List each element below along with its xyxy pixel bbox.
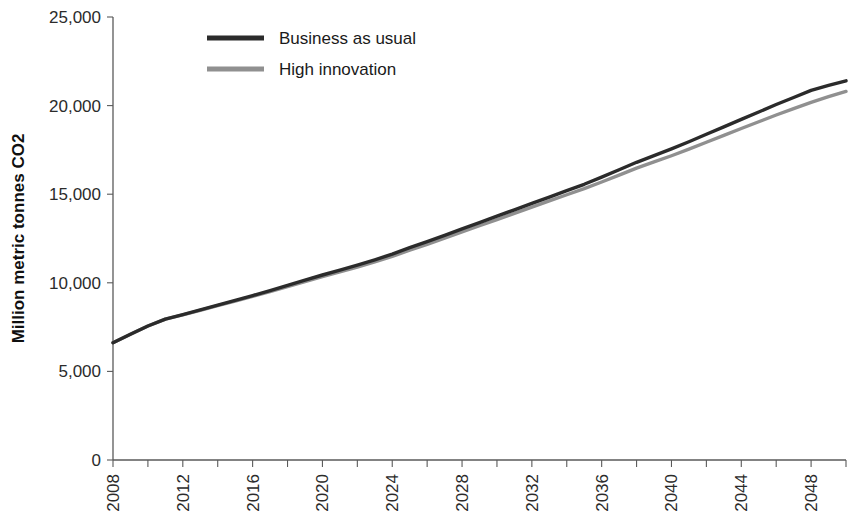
axes-group — [107, 17, 846, 467]
x-tick-label: 2012 — [174, 474, 193, 512]
x-tick-label: 2048 — [802, 474, 821, 512]
legend-label: Business as usual — [279, 29, 416, 48]
x-tick-label: 2016 — [244, 474, 263, 512]
line-chart: 05,00010,00015,00020,00025,000 200820122… — [0, 0, 850, 515]
y-tick-label: 5,000 — [58, 362, 101, 381]
x-tick-label: 2008 — [104, 474, 123, 512]
y-tick-labels: 05,00010,00015,00020,00025,000 — [49, 8, 101, 470]
x-tick-labels: 2008201220162020202420282032203620402044… — [104, 474, 821, 512]
y-axis-title-text: Million metric tonnes CO2 — [9, 134, 28, 344]
x-tick-label: 2024 — [383, 474, 402, 512]
x-tick-label: 2028 — [453, 474, 472, 512]
y-tick-label: 10,000 — [49, 274, 101, 293]
series-group — [113, 81, 846, 343]
y-axis-title: Million metric tonnes CO2 — [9, 134, 28, 344]
y-tick-label: 0 — [92, 451, 101, 470]
legend-label: High innovation — [279, 60, 396, 79]
chart-container: 05,00010,00015,00020,00025,000 200820122… — [0, 0, 850, 515]
x-tick-label: 2036 — [593, 474, 612, 512]
x-tick-label: 2020 — [313, 474, 332, 512]
y-tick-label: 25,000 — [49, 8, 101, 27]
y-tick-label: 20,000 — [49, 97, 101, 116]
x-tick-label: 2032 — [523, 474, 542, 512]
x-tick-label: 2040 — [662, 474, 681, 512]
chart-legend: Business as usualHigh innovation — [207, 29, 416, 79]
y-tick-label: 15,000 — [49, 185, 101, 204]
series-line — [113, 81, 846, 343]
x-tick-label: 2044 — [732, 474, 751, 512]
